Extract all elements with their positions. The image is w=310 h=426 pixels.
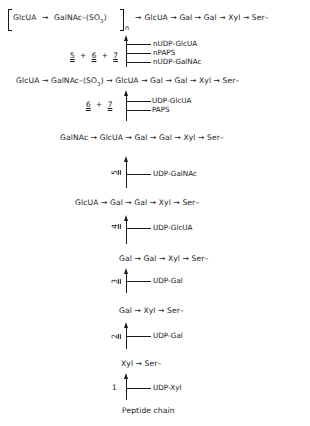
enzyme-2: 2 [110,334,119,339]
branch [126,174,151,175]
substrate-label: nUDP-GalNAc [153,57,201,66]
substrate-label: UDP-GlcUA [152,96,192,105]
repeat-bracket-right [120,9,124,31]
row2-chain: Xyl → Ser– [121,359,161,368]
enzyme-3: 3 [110,279,119,284]
reaction-arrow [126,220,127,244]
enzyme-num: 4 [110,224,119,229]
branch [126,53,151,54]
enzyme-num: 7 [108,100,113,109]
row8-rest: GlcUA → Gal → Gal → Xyl → Ser– [144,13,268,22]
row3-chain: Gal → Xyl → Ser– [119,306,184,315]
branch [126,281,151,282]
enzyme-1: 1 [112,383,117,392]
enzyme-5-6-7: 5 + 6 + 7 [70,51,118,60]
arrow-icon: → [135,13,141,22]
row7-start: GlcUA → GalNAc–(SO [16,76,97,85]
branch [126,110,151,111]
row4-chain: Gal → Gal → Xyl → Ser– [119,254,208,263]
plus: + [96,100,102,109]
branch [126,388,151,389]
substrate-label: nUDP-GlcUA [153,39,197,48]
substrate-label: UDP-Xyl [153,383,181,392]
plus: + [80,51,86,60]
glcua-unit: GlcUA [13,13,36,22]
reaction-arrow [126,95,127,121]
galnac-so3-unit: GalNAc–(SO [54,13,100,22]
reaction-arrow [126,327,127,349]
row6-chain: GalNAc → GlcUA → Gal → Gal → Xyl → Ser– [60,133,224,142]
paren: ) [104,13,107,22]
enzyme-num: 6 [92,51,97,60]
branch [126,44,151,45]
enzyme-4: 4 [110,224,119,229]
enzyme-num: 5 [70,51,75,60]
reaction-arrow [126,378,127,400]
substrate-label: PAPS [152,105,170,114]
enzyme-6-7: 6 + 7 [86,100,112,109]
row5-chain: GlcUA → Gal → Gal → Xyl → Ser– [75,198,199,207]
substrate-label: nPAPS [153,48,175,57]
branch [126,336,151,337]
enzyme-num: 2 [110,334,119,339]
row7-rest: ) → GlcUA → Gal → Gal → Xyl → Ser– [101,76,240,85]
substrate-label: UDP-Gal [153,276,183,285]
repeat-bracket-left [8,9,12,31]
branch [126,228,151,229]
row8-start: GlcUA → GalNAc–(SO3) [13,13,107,24]
enzyme-num: 6 [86,100,91,109]
arrow-icon: → [42,13,48,22]
enzyme-num: 7 [113,51,118,60]
enzyme-num: 3 [110,279,119,284]
plus: + [102,51,108,60]
enzyme-num: 5 [110,170,119,175]
peptide-chain-label: Peptide chain [122,406,175,415]
row7-chain: GlcUA → GalNAc–(SO3) → GlcUA → Gal → Gal… [16,76,239,87]
enzyme-5: 5 [110,170,119,175]
reaction-arrow [126,273,127,293]
substrate-label: UDP-Gal [153,331,183,340]
branch [126,101,151,102]
row8-chain: →GlcUA → Gal → Gal → Xyl → Ser– [132,13,269,22]
substrate-label: UDP-GlcUA [153,223,193,232]
substrate-label: UDP-GalNAc [153,169,197,178]
branch [126,62,151,63]
repeat-n: n [125,24,129,32]
